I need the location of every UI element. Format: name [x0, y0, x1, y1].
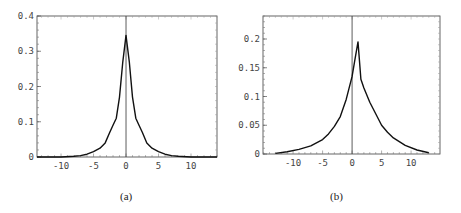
x-tick-label: -5 — [317, 158, 328, 168]
panel-label-b: (b) — [330, 190, 343, 203]
chart-panel-a: 00.10.20.30.4-10-50510 — [18, 11, 217, 171]
y-tick-label: 0.2 — [18, 82, 34, 92]
y-tick-label: 0.3 — [18, 46, 34, 56]
x-tick-label: 5 — [156, 161, 161, 171]
y-tick-label: 0.1 — [244, 92, 260, 102]
y-tick-label: 0.05 — [238, 120, 260, 130]
plot-frame — [263, 16, 440, 154]
y-tick-label: 0.15 — [238, 63, 260, 73]
x-tick-label: 10 — [406, 158, 417, 168]
x-tick-label: -10 — [53, 161, 69, 171]
figure: 00.10.20.30.4-10-50510 00.050.10.150.2-1… — [0, 0, 461, 213]
x-tick-label: 10 — [186, 161, 197, 171]
x-tick-label: 0 — [349, 158, 354, 168]
chart-panel-b: 00.050.10.150.2-10-50510 — [238, 16, 440, 168]
y-tick-label: 0 — [255, 149, 260, 159]
x-tick-label: -10 — [285, 158, 301, 168]
density-curve — [37, 35, 217, 157]
y-tick-label: 0 — [29, 152, 34, 162]
x-tick-label: 0 — [123, 161, 128, 171]
y-tick-label: 0.4 — [18, 11, 34, 21]
x-tick-label: -5 — [88, 161, 99, 171]
panel-label-a: (a) — [120, 190, 133, 203]
y-tick-label: 0.2 — [244, 34, 260, 44]
plot-frame — [37, 16, 217, 157]
x-tick-label: 5 — [379, 158, 384, 168]
y-tick-label: 0.1 — [18, 117, 34, 127]
